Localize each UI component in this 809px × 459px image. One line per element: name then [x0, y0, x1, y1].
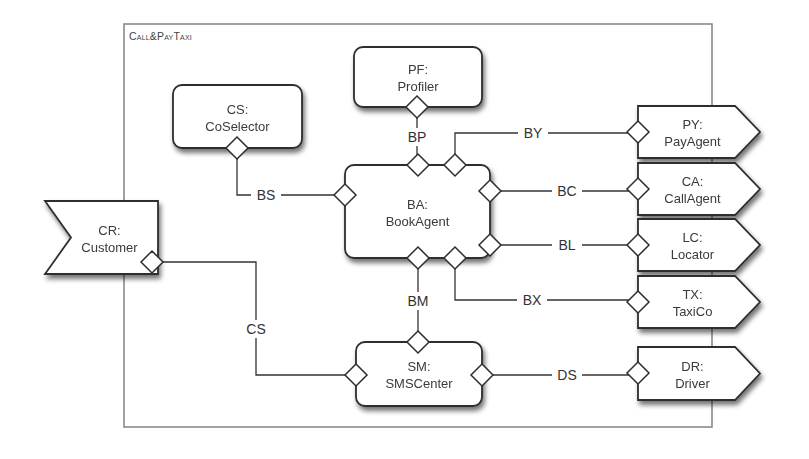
structure-diagram: Call&PayTaxi PF:ProfilerCS:CoSelectorBA:… — [0, 0, 809, 459]
part-box — [345, 165, 490, 258]
connector-label-bs: BS — [257, 187, 276, 203]
part-role: LC: — [682, 230, 702, 245]
part-box — [638, 276, 760, 328]
part-type: Profiler — [397, 79, 439, 94]
part-role: CR: — [98, 223, 120, 238]
part-type: Driver — [675, 376, 710, 391]
connector-label-bx: BX — [523, 292, 542, 308]
part-type: SMSCenter — [385, 376, 453, 391]
connector-label-bp: BP — [408, 129, 427, 145]
part-type: Locator — [671, 247, 715, 262]
part-taxico[interactable]: TX:TaxiCo — [638, 276, 760, 328]
connector-label-bl: BL — [558, 237, 575, 253]
part-role: TX: — [682, 287, 702, 302]
part-bookagent[interactable]: BA:BookAgent — [345, 165, 490, 258]
part-payagent[interactable]: PY:PayAgent — [638, 106, 760, 158]
part-role: PF: — [408, 62, 428, 77]
part-driver[interactable]: DR:Driver — [638, 347, 760, 400]
part-box — [638, 163, 760, 215]
part-role: CS: — [227, 102, 249, 117]
connector-label-bc: BC — [557, 183, 576, 199]
connector-label-ds: DS — [557, 367, 576, 383]
part-box — [638, 347, 760, 400]
connector-label-bm: BM — [408, 293, 429, 309]
part-role: DR: — [681, 359, 703, 374]
part-type: TaxiCo — [673, 304, 713, 319]
part-role: SM: — [407, 359, 430, 374]
connector-label-cs: CS — [246, 321, 265, 337]
connector-label-by: BY — [524, 125, 543, 141]
diagram-canvas: Call&PayTaxi PF:ProfilerCS:CoSelectorBA:… — [0, 0, 809, 459]
part-role: PY: — [682, 117, 702, 132]
part-locator[interactable]: LC:Locator — [638, 219, 760, 271]
part-role: CA: — [682, 174, 704, 189]
part-type: Customer — [81, 240, 138, 255]
frame-title: Call&PayTaxi — [129, 30, 192, 42]
part-type: BookAgent — [386, 214, 450, 229]
part-box — [638, 106, 760, 158]
part-type: PayAgent — [664, 134, 721, 149]
part-callagent[interactable]: CA:CallAgent — [638, 163, 760, 215]
part-type: CallAgent — [664, 191, 721, 206]
part-role: BA: — [407, 197, 428, 212]
part-box — [638, 219, 760, 271]
part-type: CoSelector — [205, 119, 270, 134]
